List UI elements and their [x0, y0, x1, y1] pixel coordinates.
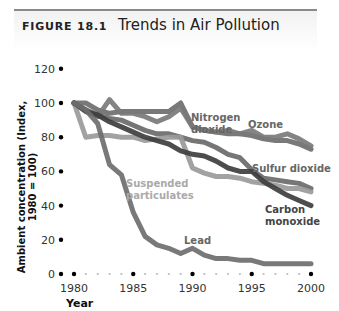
x-tick-dot: [309, 272, 313, 276]
x-tick-dot: [131, 272, 135, 276]
y-tick-label: 40: [41, 200, 55, 213]
x-tick-label: 1985: [119, 282, 147, 295]
y-tick-label: 120: [34, 63, 55, 76]
y-tick-dot: [59, 272, 63, 276]
x-minor-dot: [227, 273, 229, 275]
x-minor-dot: [156, 273, 158, 275]
x-minor-dot: [215, 273, 217, 275]
x-minor-dot: [263, 273, 265, 275]
label-nitrogen-dioxide: dioxide: [191, 124, 232, 135]
y-tick-dot: [59, 169, 63, 173]
y-tick-label: 0: [48, 268, 55, 281]
y-tick-label: 20: [41, 234, 55, 247]
x-axis-label: Year: [65, 297, 94, 310]
line-chart: 02040608010012019801985199019952000YearN…: [0, 0, 339, 311]
y-tick-dot: [59, 135, 63, 139]
x-minor-dot: [144, 273, 146, 275]
x-tick-dot: [250, 272, 254, 276]
label-carbon-monoxide: monoxide: [265, 216, 320, 227]
x-tick-label: 1995: [238, 282, 266, 295]
y-tick-dot: [59, 238, 63, 242]
y-tick-dot: [59, 101, 63, 105]
x-minor-dot: [239, 273, 241, 275]
y-tick-label: 60: [41, 165, 55, 178]
x-tick-label: 1980: [60, 282, 88, 295]
y-tick-label: 100: [34, 97, 55, 110]
x-minor-dot: [274, 273, 276, 275]
y-tick-dot: [59, 203, 63, 207]
x-minor-dot: [97, 273, 99, 275]
x-minor-dot: [298, 273, 300, 275]
x-tick-label: 1990: [179, 282, 207, 295]
label-suspended-particulates: Suspended: [126, 178, 188, 189]
x-minor-dot: [120, 273, 122, 275]
label-sulfur-dioxide: Sulfur dioxide: [252, 163, 331, 174]
label-nitrogen-dioxide: Nitrogen: [191, 112, 240, 123]
x-minor-dot: [85, 273, 87, 275]
y-tick-dot: [59, 67, 63, 71]
x-minor-dot: [108, 273, 110, 275]
x-minor-dot: [168, 273, 170, 275]
x-tick-dot: [190, 272, 194, 276]
label-carbon-monoxide: Carbon: [265, 204, 305, 215]
x-minor-dot: [180, 273, 182, 275]
label-ozone: Ozone: [248, 119, 283, 130]
y-tick-label: 80: [41, 131, 55, 144]
x-tick-dot: [72, 272, 76, 276]
x-tick-label: 2000: [297, 282, 325, 295]
label-suspended-particulates: particulates: [126, 190, 194, 201]
label-lead: Lead: [184, 235, 211, 246]
x-minor-dot: [286, 273, 288, 275]
x-minor-dot: [203, 273, 205, 275]
